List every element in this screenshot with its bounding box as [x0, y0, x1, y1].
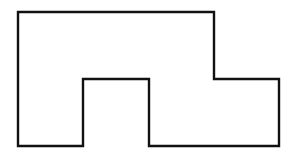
diagram-svg: [0, 0, 297, 164]
diagram-canvas: [0, 0, 297, 164]
polygon-shape: [18, 12, 279, 146]
